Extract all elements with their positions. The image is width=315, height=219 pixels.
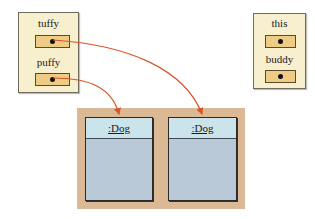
reference-arrows [0,0,315,219]
puffy-reference-arrow [53,78,119,114]
tuffy-reference-arrow [53,40,202,114]
